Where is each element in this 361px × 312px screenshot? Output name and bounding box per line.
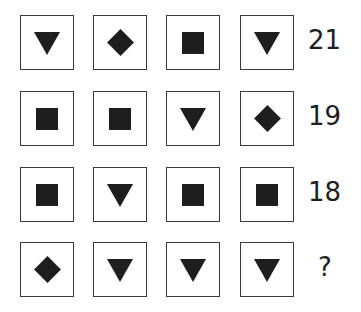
shape-cell <box>166 91 220 146</box>
diamond-icon <box>107 29 134 56</box>
square-icon <box>36 184 58 206</box>
puzzle-row: 18 <box>0 167 361 223</box>
unknown-value: ? <box>318 252 332 282</box>
shape-cell <box>20 15 74 70</box>
shape-cell <box>93 242 147 297</box>
triangle-icon <box>254 32 280 55</box>
puzzle-row: 21 <box>0 15 361 71</box>
row-value: 19 <box>308 101 341 131</box>
square-icon <box>109 108 131 130</box>
triangle-icon <box>34 32 60 55</box>
shape-cell <box>166 167 220 222</box>
shape-cell <box>166 242 220 297</box>
shape-cell <box>20 91 74 146</box>
triangle-icon <box>107 259 133 282</box>
shape-cell <box>166 15 220 70</box>
triangle-icon <box>107 184 133 207</box>
shape-cell <box>240 242 294 297</box>
shape-cell <box>93 167 147 222</box>
shape-cell <box>93 91 147 146</box>
row-value: 18 <box>308 177 341 207</box>
shape-cell <box>240 91 294 146</box>
shape-cell <box>240 167 294 222</box>
square-icon <box>256 184 278 206</box>
row-value: 21 <box>308 25 341 55</box>
shape-cell <box>20 242 74 297</box>
diamond-icon <box>34 256 61 283</box>
square-icon <box>36 108 58 130</box>
diamond-icon <box>254 105 281 132</box>
shape-cell <box>240 15 294 70</box>
puzzle-row: 19 <box>0 91 361 147</box>
triangle-icon <box>180 259 206 282</box>
shape-cell <box>20 167 74 222</box>
shape-cell <box>93 15 147 70</box>
triangle-icon <box>254 259 280 282</box>
puzzle-row: ? <box>0 242 361 298</box>
square-icon <box>182 184 204 206</box>
square-icon <box>182 32 204 54</box>
triangle-icon <box>180 108 206 131</box>
